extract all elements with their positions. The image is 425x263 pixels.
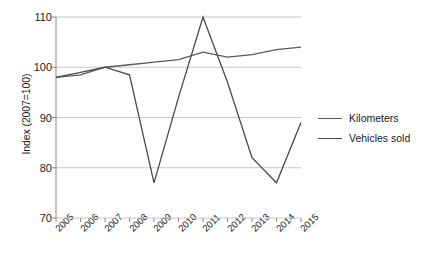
legend-label-vehicles-sold: Vehicles sold [349,132,410,144]
legend-item-vehicles-sold: Vehicles sold [318,128,422,148]
chart-legend: Kilometers Vehicles sold [318,108,422,148]
legend-line-vehicles-sold-icon [318,138,342,139]
series-line-vehicles-sold [56,17,301,183]
line-chart: Index (2007=100) 708090100110 2005200620… [0,0,425,263]
series-line-kilometers [56,47,301,77]
legend-item-kilometers: Kilometers [318,108,422,128]
legend-line-kilometers-icon [318,118,342,119]
legend-label-kilometers: Kilometers [349,112,399,124]
